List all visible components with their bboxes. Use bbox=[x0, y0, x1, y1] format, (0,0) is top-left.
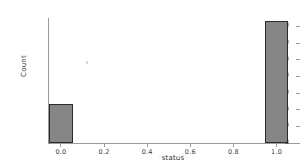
x-tick-mark bbox=[60, 143, 61, 147]
y-axis-label: Count bbox=[20, 46, 28, 86]
y-tick-mark bbox=[296, 143, 300, 144]
y-tick-mark bbox=[296, 76, 300, 77]
y-tick-mark bbox=[296, 59, 300, 60]
bar bbox=[49, 104, 73, 143]
x-axis-spine bbox=[48, 143, 298, 144]
x-tick-mark bbox=[190, 143, 191, 147]
y-tick-mark bbox=[296, 93, 300, 94]
compression-artifact-speck bbox=[86, 61, 88, 64]
y-tick-mark bbox=[296, 26, 300, 27]
x-tick-mark bbox=[233, 143, 234, 147]
x-tick-mark bbox=[104, 143, 105, 147]
y-tick-mark bbox=[296, 126, 300, 127]
y-tick-mark bbox=[296, 109, 300, 110]
histogram-figure: 020406080100120140 0.00.20.40.60.81.0 st… bbox=[0, 0, 304, 166]
x-axis-label: status bbox=[48, 154, 298, 162]
x-tick-mark bbox=[276, 143, 277, 147]
y-tick-mark bbox=[296, 43, 300, 44]
plot-area: 020406080100120140 0.00.20.40.60.81.0 bbox=[48, 18, 296, 143]
bar bbox=[265, 21, 289, 143]
x-tick-mark bbox=[147, 143, 148, 147]
